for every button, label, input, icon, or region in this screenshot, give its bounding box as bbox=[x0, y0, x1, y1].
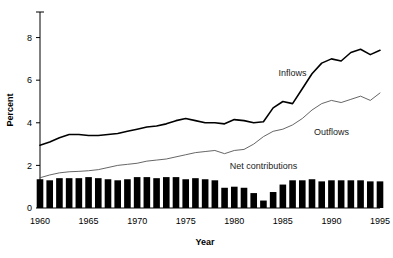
net-contribution-bar bbox=[163, 177, 170, 208]
x-tick-label: 1970 bbox=[127, 216, 147, 226]
net-contribution-bar bbox=[37, 179, 44, 208]
net-contribution-bar bbox=[56, 178, 63, 208]
net-contribution-bar bbox=[377, 181, 384, 208]
y-tick-label: 8 bbox=[27, 33, 32, 43]
net-contribution-bar bbox=[76, 178, 83, 208]
net-contribution-bar bbox=[192, 178, 199, 208]
net-contribution-bar bbox=[124, 179, 131, 208]
net-contribution-bar bbox=[221, 188, 228, 208]
x-tick-label: 1975 bbox=[176, 216, 196, 226]
net-contribution-bar bbox=[202, 179, 209, 208]
net-contribution-bar bbox=[367, 181, 374, 208]
chart-canvas: 02468 19601965197019751980198519901995 I… bbox=[0, 0, 393, 258]
net-contribution-bar bbox=[212, 180, 219, 208]
net-contributions-label: Net contributions bbox=[230, 161, 298, 171]
x-tick-label: 1995 bbox=[370, 216, 390, 226]
net-contribution-bar bbox=[348, 180, 355, 208]
y-tick-label: 6 bbox=[27, 75, 32, 85]
net-contribution-bar bbox=[182, 179, 189, 208]
x-tick-label: 1985 bbox=[273, 216, 293, 226]
y-tick-label: 4 bbox=[27, 118, 32, 128]
net-contribution-bar bbox=[318, 181, 325, 208]
net-contribution-bar bbox=[289, 180, 296, 208]
y-tick-label: 0 bbox=[27, 203, 32, 213]
x-tick-label: 1965 bbox=[79, 216, 99, 226]
net-contribution-bar bbox=[250, 193, 257, 208]
x-tick-label: 1980 bbox=[224, 216, 244, 226]
outflows-label: Outflows bbox=[314, 127, 350, 137]
net-contribution-bar bbox=[260, 201, 267, 208]
net-contribution-bar bbox=[85, 177, 92, 208]
net-contribution-bar bbox=[134, 177, 141, 208]
net-contribution-bar bbox=[173, 177, 180, 208]
net-contribution-bar bbox=[328, 180, 335, 208]
net-contribution-bar bbox=[270, 192, 277, 208]
x-axis-title: Year bbox=[195, 237, 215, 247]
net-contribution-bar bbox=[144, 177, 151, 208]
net-contribution-bar bbox=[46, 180, 53, 208]
chart-figure: 02468 19601965197019751980198519901995 I… bbox=[0, 0, 393, 258]
x-tick-label: 1960 bbox=[30, 216, 50, 226]
x-tick-label: 1990 bbox=[321, 216, 341, 226]
net-contribution-bar bbox=[114, 180, 121, 208]
net-contribution-bar bbox=[66, 178, 73, 208]
net-contribution-bar bbox=[95, 178, 102, 208]
net-contribution-bar bbox=[241, 188, 248, 208]
inflows-label: Inflows bbox=[279, 68, 308, 78]
net-contribution-bar bbox=[280, 185, 287, 208]
y-tick-label: 2 bbox=[27, 161, 32, 171]
net-contribution-bar bbox=[338, 180, 345, 208]
y-axis-title: Percent bbox=[5, 93, 15, 126]
net-contribution-bar bbox=[231, 187, 238, 208]
net-contribution-bar bbox=[105, 179, 112, 208]
net-contribution-bar bbox=[299, 180, 306, 208]
net-contribution-bar bbox=[153, 178, 160, 208]
net-contribution-bar bbox=[309, 179, 316, 208]
net-contribution-bar bbox=[357, 180, 364, 208]
